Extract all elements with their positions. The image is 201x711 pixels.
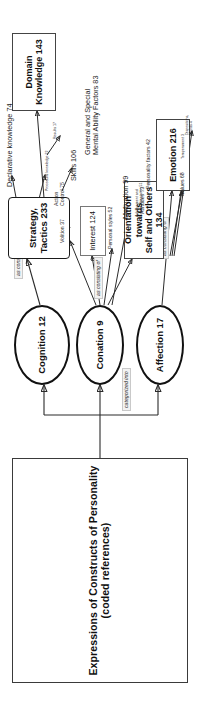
concept-map-canvas: Expressions of Constructs of Personality… bbox=[0, 0, 201, 711]
node-cognition-label: Cognition 12 bbox=[37, 316, 47, 374]
node-interest[interactable]: Interest 124 bbox=[80, 206, 106, 256]
rotated-figure-wrapper: Expressions of Constructs of Personality… bbox=[0, 0, 201, 711]
node-conation-label: Conation 9 bbox=[95, 320, 105, 369]
edge-conation-personalstyles bbox=[104, 249, 112, 305]
leaf-attitudes: Attitudes 73 bbox=[140, 187, 146, 214]
node-strategy-tactics-label: Strategy, Tactics 233 bbox=[28, 201, 50, 255]
node-domain-knowledge-label: Domain Knowledge 143 bbox=[24, 37, 45, 107]
node-affection-label: Affection 17 bbox=[155, 318, 165, 372]
node-cognition[interactable]: Cognition 12 bbox=[14, 305, 70, 385]
node-affection[interactable]: Affection 17 bbox=[136, 305, 184, 385]
leaf-results: Results 17 bbox=[54, 122, 58, 139]
leaf-personal-styles: Personal styles 52 bbox=[108, 207, 114, 249]
figure-title-frame: Expressions of Constructs of Personality… bbox=[12, 458, 188, 683]
node-conation[interactable]: Conation 9 bbox=[76, 305, 124, 385]
page-title: Expressions of Constructs of Personality… bbox=[88, 463, 111, 678]
edge-affection-values bbox=[170, 191, 182, 256]
node-interest-label: Interest 124 bbox=[89, 211, 98, 251]
node-domain-knowledge[interactable]: Domain Knowledge 143 bbox=[12, 33, 56, 111]
edge-cognition-strategy bbox=[27, 259, 40, 305]
relation-chip-categorized-into: categorized into bbox=[122, 368, 131, 411]
leaf-procedural-knowledge: Procedural knowledge 22 bbox=[46, 150, 50, 191]
leaf-skills: Skills 106 bbox=[70, 150, 78, 181]
edge-conation-orientation bbox=[108, 259, 132, 305]
leaf-values: Values 68 bbox=[180, 172, 186, 195]
leaf-action-control: Action Control 75 bbox=[54, 182, 65, 206]
relation-chip-conation-consisting: as consisting of bbox=[94, 257, 103, 299]
node-emotion-label: Emotion 216 bbox=[168, 128, 178, 182]
leaf-motivation: Motivation 99 bbox=[122, 176, 130, 219]
leaf-personality-factors: Personality factors 42 bbox=[146, 139, 152, 189]
leaf-dispositions-moods: Dispositions, Moods 4 bbox=[186, 115, 194, 135]
leaf-declarative-knowledge: Declarative knowledge 74 bbox=[6, 103, 14, 187]
leaf-temperament: Temperament 3 bbox=[182, 134, 186, 159]
leaf-volition: Volition 37 bbox=[60, 219, 66, 243]
leaf-mental-ability-factors: General and Special Mental Ability Facto… bbox=[84, 76, 100, 156]
